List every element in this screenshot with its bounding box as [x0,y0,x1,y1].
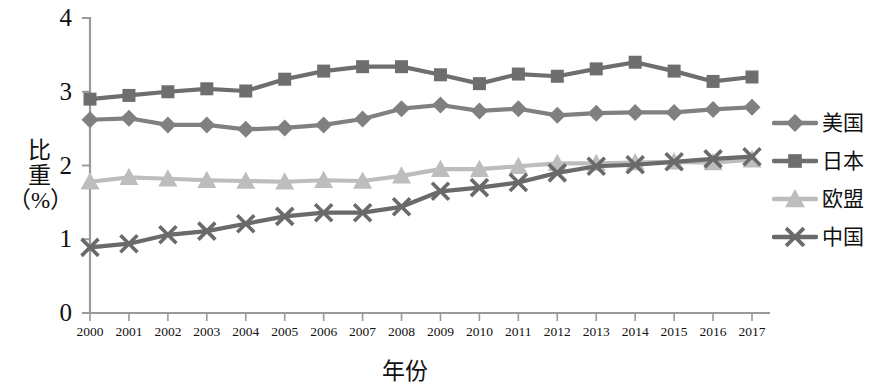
series-line [90,62,752,99]
line-chart: 比 重 （%） 年份 01234 20002001200220032004200… [0,0,873,383]
marker-diamond [510,100,527,117]
marker-square [434,68,447,81]
marker-square [84,93,97,106]
legend-item-美国[interactable]: 美国 [772,104,873,142]
legend-marker-square-icon [772,148,818,174]
series-line [90,157,752,248]
marker-diamond [786,114,804,132]
legend-label: 中国 [822,226,864,248]
marker-square [278,73,291,86]
series-欧盟 [81,150,762,189]
legend-item-欧盟[interactable]: 欧盟 [772,180,873,218]
marker-square [122,89,135,102]
marker-square [590,62,603,75]
marker-diamond [198,116,215,133]
marker-diamond [82,111,99,128]
marker-square [512,68,525,81]
series-中国 [82,148,761,256]
marker-square [239,85,252,98]
marker-square [473,77,486,90]
marker-diamond [549,107,566,124]
marker-square [395,60,408,73]
marker-diamond [471,102,488,119]
marker-diamond [315,116,332,133]
marker-diamond [120,110,137,127]
legend-marker-cross-icon [772,224,818,250]
marker-diamond [705,101,722,118]
marker-diamond [666,104,683,121]
legend-item-日本[interactable]: 日本 [772,142,873,180]
series-美国 [82,97,761,138]
marker-square [161,85,174,98]
marker-diamond [432,97,449,114]
marker-diamond [588,105,605,122]
series-日本 [84,56,759,106]
legend-marker-diamond-icon [772,110,818,136]
marker-diamond [354,111,371,128]
marker-square [668,65,681,78]
marker-diamond [276,119,293,136]
marker-square [629,56,642,69]
chart-legend: 美国日本欧盟中国 [772,104,873,256]
legend-marker-triangle-icon [772,186,818,212]
marker-square [317,65,330,78]
marker-square [746,71,759,84]
marker-diamond [744,99,761,116]
marker-diamond [159,116,176,133]
legend-item-中国[interactable]: 中国 [772,218,873,256]
legend-label: 日本 [822,150,864,172]
series-line [90,105,752,129]
marker-diamond [393,100,410,117]
marker-diamond [237,121,254,138]
marker-square [551,70,564,83]
marker-square [707,75,720,88]
plot-area [0,0,873,383]
legend-label: 欧盟 [822,188,864,210]
marker-square [356,60,369,73]
legend-label: 美国 [822,112,864,134]
marker-square [788,154,802,168]
marker-diamond [627,104,644,121]
marker-square [200,82,213,95]
